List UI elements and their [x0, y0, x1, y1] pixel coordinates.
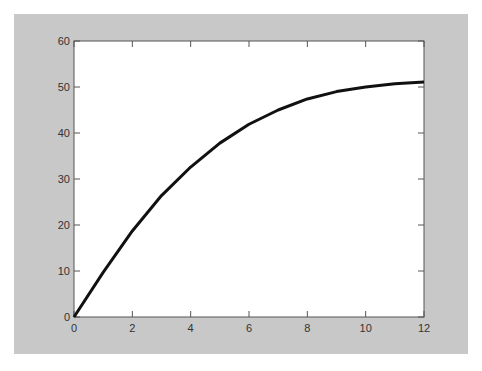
x-tick-label: 2 [129, 322, 135, 334]
x-tick-label: 0 [71, 322, 77, 334]
y-tick-label: 50 [58, 81, 70, 93]
x-tick-label: 8 [304, 322, 310, 334]
x-tick-label: 4 [188, 322, 194, 334]
plot-area [74, 41, 424, 317]
y-tick-label: 30 [58, 173, 70, 185]
x-tick-label: 10 [360, 322, 372, 334]
y-tick-label: 0 [64, 311, 70, 323]
y-tick-label: 60 [58, 35, 70, 47]
line-chart: 0246810120102030405060 [0, 0, 482, 371]
y-tick-label: 10 [58, 265, 70, 277]
x-tick-label: 12 [418, 322, 430, 334]
y-tick-label: 20 [58, 219, 70, 231]
y-tick-label: 40 [58, 127, 70, 139]
x-tick-label: 6 [246, 322, 252, 334]
